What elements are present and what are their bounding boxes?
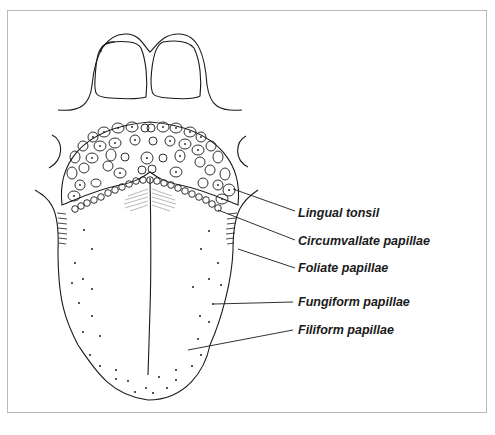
label-lingual-tonsil: Lingual tonsil (298, 206, 379, 220)
leader-lines (188, 189, 295, 350)
median-sulcus (148, 178, 151, 375)
lingual-tonsil-follicles (67, 122, 235, 204)
tongue-outline (35, 190, 258, 400)
tongue-diagram (0, 0, 495, 435)
epiglottis-left-lobe (95, 42, 147, 99)
epiglottis-outline (58, 34, 242, 110)
epiglottis-right-lobe (151, 41, 201, 99)
fungiform-papillae-dots (71, 229, 222, 394)
label-foliate-papillae: Foliate papillae (298, 261, 388, 275)
circumvallate-papillae-row (72, 177, 222, 213)
palatoglossal-fold-right (238, 136, 248, 167)
foliate-ridges (57, 213, 237, 244)
label-circumvallate-papillae: Circumvallate papillae (298, 234, 430, 248)
label-fungiform-papillae: Fungiform papillae (298, 295, 410, 309)
palatoglossal-fold-left (49, 135, 61, 168)
label-filiform-papillae: Filiform papillae (298, 323, 394, 337)
